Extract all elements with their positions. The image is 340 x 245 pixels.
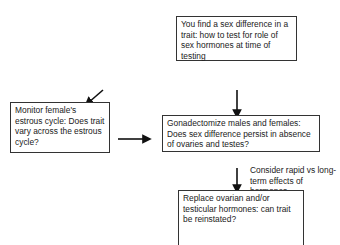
node-start: You find a sex difference in a trait: ho… xyxy=(176,16,297,61)
node-gonadectomize: Gonadectomize males and females: Does se… xyxy=(162,115,320,152)
node-gonadectomize-text: Gonadectomize males and females: Does se… xyxy=(167,118,311,149)
node-replace-text: Replace ovarian and/or testicular hormon… xyxy=(183,193,291,224)
node-estrous: Monitor female's estrous cycle: Does tra… xyxy=(10,102,110,153)
node-estrous-text: Monitor female's estrous cycle: Does tra… xyxy=(15,105,104,147)
node-start-text: You find a sex difference in a trait: ho… xyxy=(181,19,288,61)
node-replace: Replace ovarian and/or testicular hormon… xyxy=(178,190,304,245)
